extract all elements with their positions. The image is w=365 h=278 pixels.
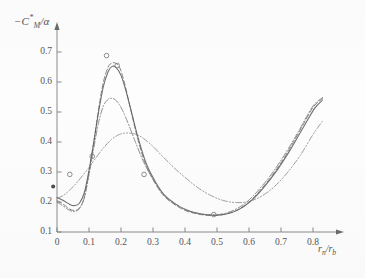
x-axis-tick-label: 0.2 [109, 237, 133, 247]
x-axis-tick-label: 0 [45, 237, 69, 247]
y-axis-tick-label: 0.7 [26, 46, 52, 56]
x-axis-arrow [336, 229, 344, 234]
y-axis-tick-label: 0.2 [26, 196, 52, 206]
x-axis-tick-label: 0.4 [173, 237, 197, 247]
y-axis-tick-label: 0.4 [26, 136, 52, 146]
marker-open-circle [142, 172, 147, 177]
marker-filled-dot [51, 184, 55, 188]
x-axis-tick-label: 0.1 [77, 237, 101, 247]
x-axis-tick-label: 0.8 [301, 237, 325, 247]
y-axis-tick-label: 0.3 [26, 166, 52, 176]
marker-open-circle [104, 53, 109, 58]
x-axis-tick-label: 0.3 [141, 237, 165, 247]
figure-container: −C*M/α rn/rb 0.10.20.30.40.50.60.700.10.… [0, 0, 365, 278]
x-axis-tick-label: 0.7 [269, 237, 293, 247]
x-axis-tick-label: 0.6 [237, 237, 261, 247]
marker-open-circle [68, 172, 73, 177]
y-axis-tick-label: 0.6 [26, 76, 52, 86]
y-axis-tick-label: 0.1 [26, 226, 52, 236]
curve-solid-main [57, 66, 323, 215]
y-axis-tick-label: 0.5 [26, 106, 52, 116]
x-axis-tick-label: 0.5 [205, 237, 229, 247]
y-axis-arrow [54, 22, 59, 30]
curve-dashed-upper [57, 63, 323, 216]
